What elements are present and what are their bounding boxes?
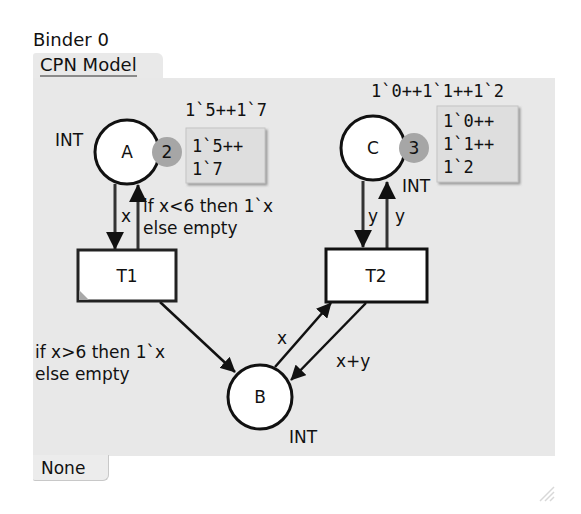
place-a-initial-marking: 1`5++1`7 bbox=[185, 100, 267, 120]
arc-t1-to-a-inscription-line-1[interactable]: if x<6 then 1`x bbox=[143, 196, 273, 216]
place-a-marking-line-1: 1`5++ bbox=[192, 136, 243, 156]
transition-t2-name: T2 bbox=[364, 266, 386, 286]
transition-t1[interactable]: T1 bbox=[78, 250, 176, 301]
place-b-name: B bbox=[254, 387, 266, 407]
place-a-marking-box: 1`5++ 1`7 bbox=[186, 128, 265, 183]
petri-net-diagram: A INT 1`5++1`7 2 1`5++ 1`7 C INT 1`0++1`… bbox=[0, 0, 581, 514]
place-a-type: INT bbox=[55, 130, 84, 150]
arc-t1-to-b[interactable] bbox=[160, 302, 235, 372]
arc-t2-to-c-inscription[interactable]: y bbox=[395, 206, 405, 226]
place-a-marking-line-2: 1`7 bbox=[192, 159, 223, 179]
tab-none[interactable]: None bbox=[33, 455, 109, 481]
place-c-marking-box: 1`0++ 1`1++ 1`2 bbox=[437, 106, 518, 182]
arc-a-to-t1-inscription[interactable]: x bbox=[121, 206, 131, 226]
arc-t1-to-b-inscription-line-1[interactable]: if x>6 then 1`x bbox=[35, 342, 165, 362]
arc-t1-to-a-inscription-line-2[interactable]: else empty bbox=[143, 218, 237, 238]
place-c-token-badge[interactable]: 3 bbox=[399, 133, 429, 163]
place-c-marking-line-3: 1`2 bbox=[443, 157, 474, 177]
arc-t1-to-b-inscription-line-2[interactable]: else empty bbox=[35, 364, 129, 384]
place-c-marking-line-2: 1`1++ bbox=[443, 134, 494, 154]
place-a[interactable]: A bbox=[95, 120, 159, 184]
arc-c-to-t2-inscription[interactable]: y bbox=[368, 206, 378, 226]
place-c-marking-line-1: 1`0++ bbox=[443, 111, 494, 131]
resize-grip-icon[interactable] bbox=[537, 484, 555, 502]
place-c-name: C bbox=[367, 138, 379, 158]
place-a-token-badge[interactable]: 2 bbox=[152, 137, 182, 167]
transition-t2[interactable]: T2 bbox=[326, 249, 427, 302]
place-a-token-count: 2 bbox=[162, 142, 173, 162]
tab-none-label: None bbox=[41, 458, 85, 478]
place-c[interactable]: C bbox=[341, 116, 405, 180]
place-a-name: A bbox=[121, 142, 133, 162]
arc-b-to-t2-inscription[interactable]: x bbox=[277, 328, 287, 348]
arc-t2-to-b-inscription[interactable]: x+y bbox=[336, 351, 370, 371]
transition-t1-name: T1 bbox=[115, 266, 137, 286]
place-b-type: INT bbox=[289, 427, 318, 447]
place-c-type: INT bbox=[402, 176, 431, 196]
place-c-token-count: 3 bbox=[409, 138, 420, 158]
place-c-initial-marking: 1`0++1`1++1`2 bbox=[371, 81, 504, 101]
place-b[interactable]: B bbox=[228, 365, 292, 429]
